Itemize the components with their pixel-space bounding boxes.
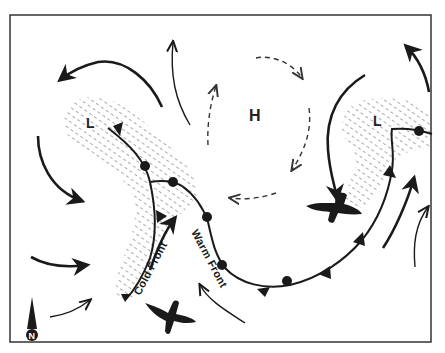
north-arrow-icon: N [26, 297, 38, 341]
warm-front-semicircle [202, 212, 212, 222]
north-label: N [29, 331, 36, 341]
wind-arrow-icon [200, 285, 245, 323]
cold-front-triangle [353, 232, 365, 246]
cold-front-triangle [257, 287, 270, 297]
precipitation-area-west [64, 97, 197, 299]
cold-front-triangle [318, 266, 331, 279]
wind-arrow-icon [414, 207, 428, 267]
warm-front-semicircle [414, 126, 424, 136]
high-pressure-label: H [249, 107, 261, 124]
warm-front-semicircle [140, 161, 150, 171]
low-pressure-label-east: L [373, 113, 382, 129]
wind-arrow-icon [38, 136, 82, 201]
weather-map: L H L Cold Front Warm Front N [0, 0, 445, 353]
bird-silhouette-icon [145, 301, 196, 334]
low-pressure-label-west: L [86, 115, 95, 131]
warm-front-semicircle [282, 276, 292, 286]
wind-arrow-icon [60, 62, 162, 107]
wind-arrow-icon [31, 257, 87, 266]
wind-arrow-icon [50, 300, 90, 317]
warm-front-semicircle [168, 177, 178, 187]
wind-arrow-icon [172, 42, 190, 125]
high-pressure-circulation [208, 57, 310, 199]
warm-front-label: Warm Front [189, 227, 230, 289]
wind-arrow-icon [406, 46, 429, 92]
